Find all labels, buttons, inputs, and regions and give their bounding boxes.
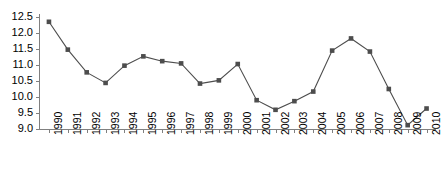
x-tick-label-2008: 2008 bbox=[393, 112, 403, 135]
data-point-2008 bbox=[387, 87, 392, 92]
data-point-2004 bbox=[311, 89, 316, 94]
data-point-2001 bbox=[254, 98, 259, 103]
y-tick-label-10.0: 10.0 bbox=[1, 91, 33, 102]
data-point-1995 bbox=[141, 54, 146, 59]
y-tick-label-11.5: 11.5 bbox=[1, 43, 33, 54]
data-point-2007 bbox=[368, 49, 373, 54]
data-point-1997 bbox=[179, 61, 184, 66]
data-point-1996 bbox=[160, 59, 165, 64]
data-point-1990 bbox=[47, 20, 52, 25]
y-tick-label-10.5: 10.5 bbox=[1, 75, 33, 86]
data-point-1999 bbox=[217, 78, 222, 83]
x-tick-label-2009: 2009 bbox=[412, 112, 422, 135]
x-tick-label-2001: 2001 bbox=[261, 112, 271, 135]
data-point-1991 bbox=[66, 47, 71, 52]
y-tick-label-11.0: 11.0 bbox=[1, 59, 33, 70]
x-tick-label-2003: 2003 bbox=[298, 112, 308, 135]
x-tick-label-2004: 2004 bbox=[317, 112, 327, 135]
x-tick-label-1997: 1997 bbox=[185, 112, 195, 135]
x-tick-label-1990: 1990 bbox=[53, 112, 63, 135]
data-point-1994 bbox=[122, 63, 127, 68]
y-tick-label-12.5: 12.5 bbox=[1, 11, 33, 22]
x-tick-label-1994: 1994 bbox=[128, 112, 138, 135]
data-point-2010 bbox=[424, 106, 429, 111]
x-tick-label-2005: 2005 bbox=[336, 112, 346, 135]
line-chart: 9.09.510.010.511.011.512.012.5 199019911… bbox=[0, 0, 441, 183]
x-tick-label-1995: 1995 bbox=[147, 112, 157, 135]
data-point-2006 bbox=[349, 36, 354, 41]
x-tick-label-1992: 1992 bbox=[91, 112, 101, 135]
data-point-1998 bbox=[198, 81, 203, 86]
data-point-2003 bbox=[292, 99, 297, 104]
x-tick-label-1999: 1999 bbox=[223, 112, 233, 135]
chart-series-line bbox=[49, 22, 427, 125]
y-tick-label-9.0: 9.0 bbox=[1, 123, 33, 134]
x-tick-label-2010: 2010 bbox=[431, 112, 441, 135]
chart-plot-area bbox=[0, 0, 441, 183]
data-point-2000 bbox=[235, 62, 240, 67]
x-tick-label-1991: 1991 bbox=[72, 112, 82, 135]
y-tick-label-12.0: 12.0 bbox=[1, 27, 33, 38]
x-tick-label-2000: 2000 bbox=[242, 112, 252, 135]
x-tick-label-1996: 1996 bbox=[166, 112, 176, 135]
data-point-1992 bbox=[84, 70, 89, 75]
x-tick-label-1993: 1993 bbox=[110, 112, 120, 135]
x-tick-label-2002: 2002 bbox=[280, 112, 290, 135]
data-point-2009 bbox=[405, 123, 410, 128]
y-tick-label-9.5: 9.5 bbox=[1, 107, 33, 118]
x-tick-label-2007: 2007 bbox=[374, 112, 384, 135]
data-point-2002 bbox=[273, 108, 278, 113]
x-tick-label-2006: 2006 bbox=[355, 112, 365, 135]
data-point-1993 bbox=[103, 81, 108, 86]
chart-data-markers bbox=[47, 20, 429, 128]
data-point-2005 bbox=[330, 48, 335, 53]
x-tick-label-1998: 1998 bbox=[204, 112, 214, 135]
